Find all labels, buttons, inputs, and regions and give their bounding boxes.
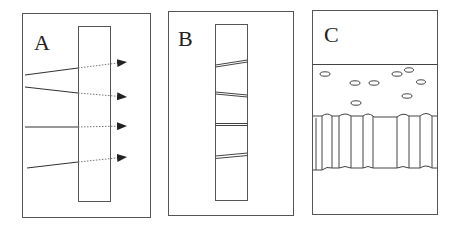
particle xyxy=(369,81,379,85)
particle xyxy=(417,80,426,84)
panel-a-slab xyxy=(79,27,111,202)
figure-canvas: A B xyxy=(0,0,459,228)
panel-b-label: B xyxy=(178,26,193,51)
particle xyxy=(320,72,330,76)
particle xyxy=(351,101,361,105)
particle xyxy=(350,81,360,85)
slit-3 xyxy=(216,124,248,126)
slit-1 xyxy=(216,60,248,67)
panel-b-slab xyxy=(216,25,248,201)
panel-b: B xyxy=(169,12,294,216)
particles xyxy=(320,68,426,105)
panel-c: C xyxy=(313,11,438,215)
slit-2 xyxy=(216,92,248,97)
particle xyxy=(402,94,412,98)
slit-4 xyxy=(216,153,248,159)
panel-a-label: A xyxy=(34,30,50,55)
panel-c-label: C xyxy=(324,22,339,47)
particle xyxy=(405,68,414,72)
panel-a: A xyxy=(23,14,151,218)
corrugated-band xyxy=(313,114,437,171)
ray-4 xyxy=(27,157,126,168)
particle xyxy=(392,72,402,76)
